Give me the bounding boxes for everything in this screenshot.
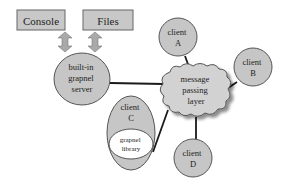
client-b-label-line1: client xyxy=(242,57,262,67)
server-label-line2: grapnel xyxy=(68,73,94,83)
client-a-node: client A xyxy=(159,18,197,56)
grapnel-architecture-diagram: Console Files built-in grapnel server me… xyxy=(0,0,287,184)
client-b-label-line2: B xyxy=(250,68,256,78)
client-c-label-line2: C xyxy=(128,113,134,123)
files-server-double-arrow-icon xyxy=(88,32,102,52)
client-d-node: client D xyxy=(174,139,212,177)
library-label-line2: library xyxy=(122,145,141,153)
server-label-line1: built-in xyxy=(68,62,94,72)
grapnel-library-node: grapnel library xyxy=(109,129,153,159)
hub-label-line1: message xyxy=(181,74,210,84)
server-to-hub-line xyxy=(110,83,164,84)
hub-label-line2: passing xyxy=(182,85,208,95)
console-label: Console xyxy=(23,15,59,27)
client-a-label-line1: client xyxy=(167,27,187,37)
server-label-line3: server xyxy=(72,84,93,94)
svg-text:built-in grapnel s: built-in grapnel server xyxy=(68,62,96,94)
svg-text:grapnel library: grapnel library xyxy=(120,136,143,153)
files-box: Files xyxy=(83,10,133,30)
files-label: Files xyxy=(97,15,118,27)
console-box: Console xyxy=(17,10,65,30)
hub-label-line3: layer xyxy=(188,96,205,106)
client-c-node: client C grapnel library xyxy=(107,96,155,170)
client-a-label-line2: A xyxy=(175,38,182,48)
client-b-node: client B xyxy=(234,48,272,86)
console-server-double-arrow-icon xyxy=(58,32,72,52)
client-d-label-line1: client xyxy=(182,148,202,158)
library-label-line1: grapnel xyxy=(120,136,141,144)
client-d-label-line2: D xyxy=(190,159,196,169)
grapnel-server-node: built-in grapnel server xyxy=(54,53,110,105)
client-c-label-line1: client xyxy=(120,102,140,112)
